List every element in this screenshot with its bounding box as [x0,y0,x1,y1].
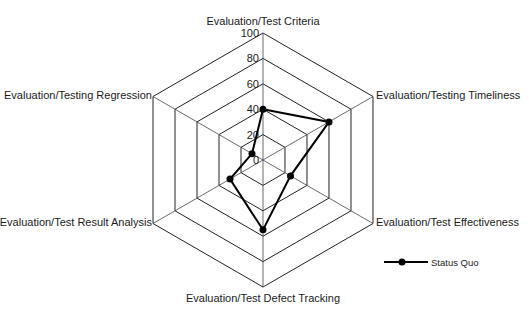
data-point-marker [260,106,267,113]
axis-label: Evaluation/Test Result Analysis [0,216,152,228]
radar-spokes [153,33,373,287]
axis-spoke [263,160,373,224]
data-point-marker [287,172,294,179]
axis-spoke [153,160,263,224]
data-point-marker [325,118,332,125]
axis-label: Evaluation/Testing Regression [4,89,152,101]
legend: Status Quo [384,257,479,268]
legend-label: Status Quo [431,257,479,268]
tick-label: 100 [241,27,259,39]
axis-spoke [263,97,373,161]
axis-label: Evaluation/Testing Timeliness [376,89,521,101]
tick-label: 40 [247,103,259,115]
data-point-marker [227,176,234,183]
tick-label: 60 [247,78,259,90]
radar-chart: 020406080100 Evaluation/Test CriteriaEva… [0,0,529,314]
data-point-marker [249,150,256,157]
radial-tick-labels: 020406080100 [241,27,259,166]
axis-label: Evaluation/Test Criteria [206,15,320,27]
tick-label: 80 [247,52,259,64]
axis-label: Evaluation/Test Effectiveness [376,216,519,228]
axis-label: Evaluation/Test Defect Tracking [186,292,340,304]
legend-marker-icon [399,259,406,266]
data-point-marker [260,226,267,233]
